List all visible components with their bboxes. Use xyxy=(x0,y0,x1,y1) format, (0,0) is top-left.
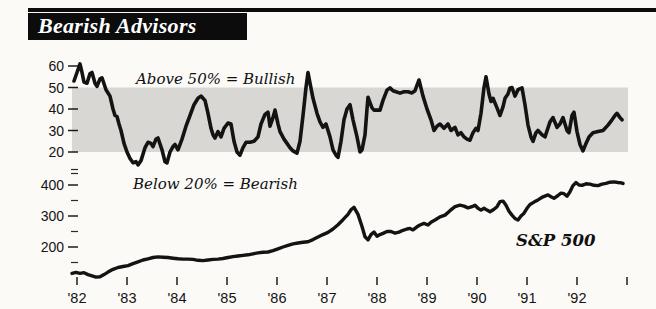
x-tick-label: '86 xyxy=(268,290,287,306)
x-tick-label: '90 xyxy=(468,290,487,306)
y-tick-label-sp500: 400 xyxy=(41,177,65,193)
x-tick-label: '88 xyxy=(368,290,387,306)
y-tick-label-sp500: 200 xyxy=(41,239,65,255)
y-tick-label-advisors: 40 xyxy=(48,101,64,117)
x-tick-label: '85 xyxy=(218,290,237,306)
x-tick-label: '87 xyxy=(318,290,337,306)
chart-page: Bearish Advisors 6050403020400300200'82'… xyxy=(0,0,656,309)
annotation-below-20-bearish: Below 20% = Bearish xyxy=(132,175,298,193)
y-tick-label-advisors: 60 xyxy=(48,58,64,74)
x-tick-label: '91 xyxy=(518,290,537,306)
chart-canvas: 6050403020400300200'82'83'84'85'86'87'88… xyxy=(0,0,656,309)
y-tick-label-advisors: 30 xyxy=(48,123,64,139)
x-tick-label: '89 xyxy=(418,290,437,306)
x-tick-label: '82 xyxy=(68,290,87,306)
annotation-above-50-bullish: Above 50% = Bullish xyxy=(134,70,295,88)
y-tick-label-advisors: 20 xyxy=(48,144,64,160)
y-tick-label-advisors: 50 xyxy=(48,80,64,96)
x-tick-label: '84 xyxy=(168,290,187,306)
y-tick-label-sp500: 300 xyxy=(41,208,65,224)
x-tick-label: '83 xyxy=(118,290,137,306)
x-tick-label: '92 xyxy=(568,290,587,306)
sp500-line xyxy=(72,182,623,277)
annotation-sp500-label: S&P 500 xyxy=(516,231,596,250)
